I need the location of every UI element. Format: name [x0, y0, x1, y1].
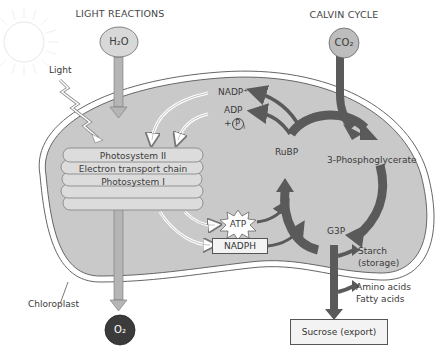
light-label: Light [49, 66, 71, 76]
g3p-label: G3P [327, 227, 345, 237]
starch-storage-label: (storage) [358, 259, 399, 269]
h2o-label: H₂O [109, 36, 128, 47]
light-reactions-header: LIGHT REACTIONS [75, 9, 164, 19]
electron-transport-chain-label: Electron transport chain [79, 165, 188, 175]
co2-label: CO₂ [335, 37, 354, 48]
rubp-label: RuBP [275, 148, 298, 158]
phosphate-circle-icon: P [232, 118, 244, 130]
nadp-label: NADP⁺ [218, 88, 248, 98]
calvin-cycle-header: CALVIN CYCLE [310, 10, 379, 20]
starch-label: Starch [358, 247, 387, 257]
adp-label: ADP [224, 106, 243, 116]
sucrose-export-box: Sucrose (export) [290, 319, 388, 345]
photosystem-ii-label: Photosystem II [100, 152, 166, 162]
phosphate-label: +Pi [224, 118, 245, 130]
o2-label: O₂ [114, 324, 126, 335]
amino-acids-label: Amino acids [356, 283, 411, 293]
atp-label: ATP [230, 220, 246, 230]
chloroplast-label: Chloroplast [28, 300, 79, 310]
photosystem-i-label: Photosystem I [101, 178, 165, 188]
fatty-acids-label: Fatty acids [356, 295, 404, 305]
phosphate-subscript: i [244, 123, 246, 130]
3-phosphoglycerate-label: 3-Phosphoglycerate [327, 156, 417, 166]
plus-sign: + [224, 118, 232, 128]
nadph-box: NADPH [212, 238, 268, 254]
